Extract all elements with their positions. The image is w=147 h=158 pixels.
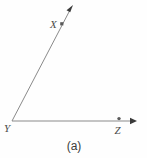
angle-diagram-svg: X Y Z (a) <box>0 0 147 158</box>
point-marker-z <box>117 117 120 120</box>
point-marker-x <box>60 22 63 25</box>
point-label-z: Z <box>115 124 122 136</box>
ray-yz-arrowhead-icon <box>130 118 137 124</box>
ray-yx-arrowhead-icon <box>67 5 74 12</box>
figure-container: X Y Z (a) <box>0 0 147 158</box>
point-label-y: Y <box>4 122 12 134</box>
point-label-x: X <box>49 18 58 30</box>
figure-caption: (a) <box>67 139 82 153</box>
ray-yx-line <box>12 10 70 121</box>
